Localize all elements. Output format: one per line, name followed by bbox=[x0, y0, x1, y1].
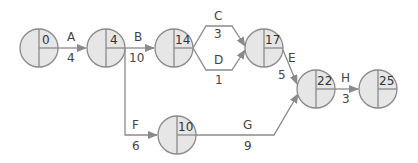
activity-A-label: A bbox=[67, 30, 76, 44]
activity-F-label: F bbox=[132, 118, 139, 132]
node-22: 22 bbox=[297, 70, 335, 108]
activity-D-duration: 1 bbox=[215, 73, 223, 87]
node-4: 4 bbox=[87, 29, 125, 67]
network-diagram: A 4 B 10 C 3 D 1 E 5 F 6 G 9 H 3 bbox=[0, 0, 418, 163]
activity-A-duration: 4 bbox=[67, 51, 75, 65]
node-17: 17 bbox=[245, 29, 283, 67]
node-14-value: 14 bbox=[175, 33, 190, 47]
activity-D-label: D bbox=[214, 53, 223, 67]
activity-E-label: E bbox=[288, 51, 296, 65]
edge-C: C 3 bbox=[193, 9, 245, 48]
activity-E-duration: 5 bbox=[278, 68, 286, 82]
activity-H-duration: 3 bbox=[342, 92, 350, 106]
activity-B-duration: 10 bbox=[129, 51, 144, 65]
activity-G-label: G bbox=[243, 118, 252, 132]
edge-H: H 3 bbox=[335, 71, 358, 106]
node-0: 0 bbox=[20, 29, 58, 67]
edge-D: D 1 bbox=[193, 48, 245, 87]
activity-C-duration: 3 bbox=[214, 27, 222, 41]
node-0-value: 0 bbox=[42, 33, 50, 47]
node-25: 25 bbox=[359, 70, 397, 108]
activity-G-duration: 9 bbox=[244, 139, 252, 153]
edge-A: A 4 bbox=[58, 30, 86, 65]
activity-C-label: C bbox=[214, 9, 222, 23]
edge-G: G 9 bbox=[196, 94, 298, 153]
node-17-value: 17 bbox=[265, 33, 280, 47]
activity-B-label: B bbox=[134, 30, 142, 44]
edge-B: B 10 bbox=[125, 30, 154, 65]
node-4-value: 4 bbox=[110, 33, 118, 47]
node-25-value: 25 bbox=[379, 74, 394, 88]
activity-F-duration: 6 bbox=[132, 139, 140, 153]
node-10-value: 10 bbox=[178, 120, 193, 134]
node-14: 14 bbox=[155, 29, 193, 67]
node-10: 10 bbox=[158, 116, 196, 154]
activity-H-label: H bbox=[341, 71, 350, 85]
node-22-value: 22 bbox=[317, 74, 332, 88]
